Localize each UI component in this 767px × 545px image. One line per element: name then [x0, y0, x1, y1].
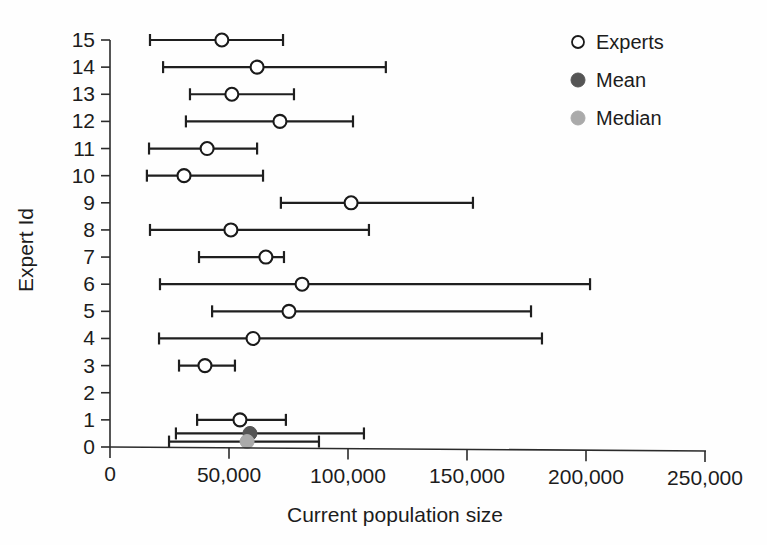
legend-marker-median-icon [571, 111, 585, 125]
expert-point-marker [273, 115, 286, 128]
x-tick-label: 250,000 [667, 466, 743, 489]
y-tick-label: 10 [72, 164, 95, 187]
y-tick-label: 1 [83, 408, 95, 431]
expert-point-marker [198, 359, 211, 372]
x-tick-label: 0 [104, 462, 116, 485]
expert-point-marker [296, 278, 309, 291]
y-tick-label: 13 [72, 82, 95, 105]
chart-canvas: 050,000100,000150,000200,000250,00001234… [0, 0, 767, 545]
expert-point-marker [178, 169, 191, 182]
expert-point-marker [247, 332, 260, 345]
expert-point-marker [259, 251, 272, 264]
interval-row [147, 169, 263, 182]
interval-row [160, 278, 590, 291]
x-axis-line [110, 447, 706, 451]
legend-marker-mean-icon [571, 73, 585, 87]
y-tick-label: 0 [83, 435, 95, 458]
expert-point-marker [233, 413, 246, 426]
interval-row [179, 359, 235, 372]
expert-point-marker [282, 305, 295, 318]
y-tick-label: 7 [83, 245, 95, 268]
y-tick-label: 11 [73, 137, 95, 160]
axis-layer: 050,000100,000150,000200,000250,00001234… [72, 28, 743, 489]
median-point-marker [240, 435, 254, 449]
interval-row [176, 426, 364, 440]
legend-label-experts: Experts [596, 31, 664, 53]
interval-row [150, 34, 283, 47]
y-tick-label: 12 [72, 109, 95, 132]
y-tick-label: 2 [83, 381, 95, 404]
interval-row [163, 61, 386, 74]
x-tick-label: 50,000 [197, 463, 261, 486]
interval-row [190, 88, 294, 101]
y-tick-label: 14 [72, 55, 96, 78]
interval-row [281, 196, 473, 209]
interval-row [199, 251, 284, 264]
interval-row [159, 332, 542, 345]
legend-marker-experts-icon [572, 36, 584, 48]
expert-point-marker [225, 88, 238, 101]
legend-layer: ExpertsMeanMedian [571, 31, 664, 129]
expert-point-marker [201, 142, 214, 155]
x-tick-label: 200,000 [548, 465, 624, 488]
y-tick-label: 15 [72, 28, 95, 51]
y-tick-label: 3 [83, 354, 95, 377]
interval-row [186, 115, 353, 128]
interval-row [169, 435, 319, 449]
expert-point-marker [224, 223, 237, 236]
y-tick-label: 4 [83, 326, 95, 349]
interval-plot: 050,000100,000150,000200,000250,00001234… [0, 0, 767, 545]
y-tick-label: 8 [83, 218, 95, 241]
interval-row [197, 413, 286, 426]
y-tick-label: 9 [83, 191, 95, 214]
y-tick-label: 5 [83, 299, 95, 322]
x-axis-title: Current population size [287, 503, 503, 526]
legend-label-median: Median [596, 107, 662, 129]
expert-point-marker [345, 196, 358, 209]
interval-row [149, 142, 257, 155]
x-tick-label: 150,000 [429, 464, 505, 487]
legend-label-mean: Mean [596, 69, 646, 91]
plot-layer [147, 34, 590, 449]
expert-point-marker [251, 61, 264, 74]
x-tick-label: 100,000 [310, 464, 386, 487]
expert-point-marker [215, 34, 228, 47]
y-axis-title: Expert Id [14, 208, 37, 292]
y-tick-label: 6 [83, 272, 95, 295]
interval-row [150, 223, 369, 236]
interval-row [212, 305, 531, 318]
